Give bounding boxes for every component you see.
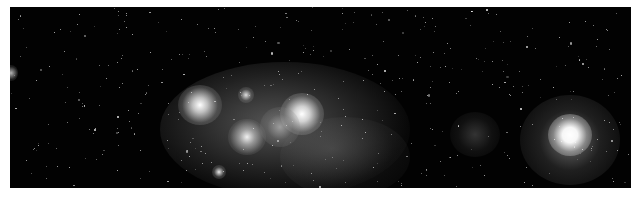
star [614, 92, 615, 93]
star [186, 170, 187, 171]
star [134, 133, 136, 135]
star [445, 66, 446, 67]
star [506, 76, 508, 78]
star [573, 91, 574, 92]
star [102, 154, 103, 155]
star [500, 31, 501, 32]
star [20, 15, 22, 17]
star [343, 81, 344, 82]
star [117, 33, 118, 34]
star [119, 87, 120, 88]
star [458, 125, 460, 127]
star [549, 173, 550, 174]
star [36, 150, 37, 151]
star [586, 59, 587, 60]
star [507, 64, 508, 65]
star [382, 120, 383, 121]
star [323, 56, 324, 57]
star [559, 37, 560, 38]
star [265, 41, 266, 42]
star [279, 74, 280, 75]
star [365, 132, 366, 133]
star [34, 148, 35, 149]
star [450, 157, 451, 158]
star [432, 129, 433, 130]
star [345, 23, 346, 24]
star [392, 80, 394, 82]
star [286, 125, 288, 127]
star [570, 42, 572, 44]
star [394, 113, 396, 115]
star [504, 152, 505, 153]
star [270, 178, 271, 179]
star [415, 55, 416, 56]
star [457, 155, 459, 157]
star [239, 62, 240, 63]
star [122, 55, 123, 56]
star [46, 178, 47, 179]
star [496, 14, 497, 15]
star [89, 129, 90, 130]
star [298, 73, 299, 74]
star [303, 52, 304, 53]
star [15, 108, 17, 110]
star [377, 163, 378, 164]
star [532, 124, 533, 125]
star [85, 158, 86, 159]
star [26, 160, 27, 161]
star [23, 28, 24, 29]
star [128, 110, 129, 111]
star [273, 84, 274, 85]
star [380, 83, 381, 84]
star [310, 54, 311, 55]
nebula-knot-bottom [212, 165, 226, 179]
star [223, 77, 224, 78]
star [26, 47, 27, 48]
star [117, 170, 118, 171]
star [503, 71, 504, 72]
star [100, 86, 101, 87]
star [246, 47, 247, 48]
star [470, 25, 471, 26]
star [485, 48, 486, 49]
star [166, 31, 167, 32]
star [70, 31, 71, 32]
star [556, 99, 557, 100]
astronomical-image [10, 7, 631, 188]
star [223, 171, 224, 172]
star [433, 52, 434, 53]
star [124, 21, 125, 22]
star [613, 181, 614, 182]
faint-cloud [450, 112, 500, 157]
star [579, 59, 581, 61]
star [314, 89, 315, 90]
star [79, 118, 80, 119]
star [606, 151, 607, 152]
star [241, 95, 242, 96]
star [411, 143, 412, 144]
star [519, 71, 520, 72]
star [597, 39, 598, 40]
star [18, 19, 19, 20]
star [249, 95, 250, 96]
star [478, 59, 479, 60]
star [372, 55, 373, 56]
star [224, 8, 225, 9]
star [158, 22, 159, 23]
star [456, 93, 457, 94]
star [524, 182, 525, 183]
nebula-knot-center [228, 119, 266, 155]
star [118, 145, 119, 146]
star [465, 18, 467, 20]
star [205, 153, 206, 154]
star [616, 13, 617, 14]
star [190, 142, 191, 143]
star [298, 21, 300, 23]
star [279, 110, 280, 111]
star [129, 121, 130, 122]
star [434, 145, 436, 147]
star [575, 142, 576, 143]
star [609, 122, 610, 123]
star [188, 58, 189, 59]
star [192, 138, 194, 140]
